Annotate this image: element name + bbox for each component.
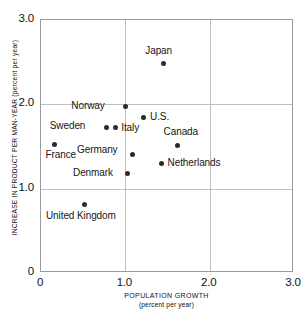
x-tick-label: 1.0 <box>104 276 144 288</box>
gridline-horizontal <box>41 189 292 190</box>
data-point <box>113 125 118 130</box>
data-point <box>141 115 146 120</box>
gridline-vertical <box>125 20 126 271</box>
data-point-label: United Kingdom <box>46 210 116 221</box>
x-axis-label: POPULATION GROWTH (percent per year) <box>40 291 293 309</box>
data-point-label: Sweden <box>50 120 86 131</box>
data-point-label: Denmark <box>73 167 113 178</box>
data-point <box>104 125 109 130</box>
data-point-label: U.S. <box>150 111 169 122</box>
x-axis-label-sub: (percent per year) <box>40 300 293 309</box>
data-point <box>161 61 166 66</box>
data-point-label: Italy <box>121 122 139 133</box>
data-point-label: Germany <box>77 144 117 155</box>
x-tick-label: 3.0 <box>273 276 302 288</box>
data-point <box>159 161 164 166</box>
data-point <box>125 171 130 176</box>
x-axis-label-main: POPULATION GROWTH <box>40 291 293 300</box>
data-point <box>130 152 135 157</box>
data-point <box>123 104 128 109</box>
scatter-chart: JapanNorwayU.S.SwedenItalyCanadaFranceGe… <box>0 0 302 314</box>
gridline-vertical <box>210 20 211 271</box>
x-tick-label: 2.0 <box>189 276 229 288</box>
x-tick-label: 0 <box>20 276 60 288</box>
y-axis-label: INCREASE IN PRODUCT PER MAN-YEAR (percen… <box>11 38 18 238</box>
data-point-label: Netherlands <box>168 157 221 168</box>
data-point-label: France <box>45 149 76 160</box>
data-point <box>52 142 57 147</box>
plot-area: JapanNorwayU.S.SwedenItalyCanadaFranceGe… <box>40 19 293 272</box>
data-point <box>82 202 87 207</box>
data-point-label: Canada <box>164 126 198 137</box>
data-point <box>175 143 180 148</box>
data-point-label: Japan <box>145 45 172 56</box>
y-tick-label: 3.0 <box>0 12 34 24</box>
data-point-label: Norway <box>71 100 104 111</box>
